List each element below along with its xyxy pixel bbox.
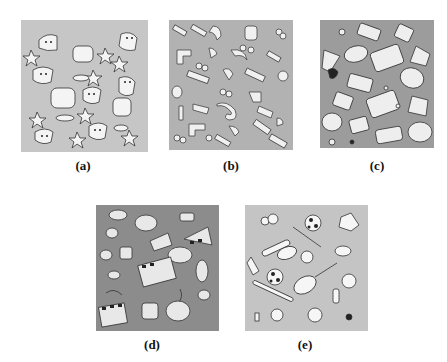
theater-texture-image (21, 20, 148, 152)
sports-objects-texture-image (245, 205, 368, 331)
music-notes-texture-image (169, 20, 293, 150)
film-objects-texture-image (96, 205, 219, 331)
texture-panel-c (320, 20, 434, 148)
texture-panel-a (21, 20, 148, 152)
panel-caption-b: (b) (211, 159, 251, 173)
texture-panel-d (96, 205, 219, 331)
panel-caption-a: (a) (63, 159, 103, 173)
panel-caption-d: (d) (132, 338, 172, 352)
office-objects-texture-image (320, 20, 434, 148)
panel-caption-e: (e) (285, 338, 325, 352)
panel-caption-c: (c) (357, 159, 397, 173)
texture-panel-b (169, 20, 293, 150)
texture-panel-e (245, 205, 368, 331)
